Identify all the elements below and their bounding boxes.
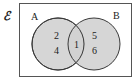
set-a-element: 2 — [54, 30, 59, 41]
set-b-element: 6 — [92, 45, 97, 56]
set-b-element: 5 — [92, 30, 97, 41]
venn-diagram: ℰ A B 2 4 1 5 6 — [0, 0, 136, 80]
universal-set-symbol: ℰ — [3, 9, 12, 23]
intersection-element: 1 — [74, 39, 79, 50]
set-a-element: 4 — [54, 45, 59, 56]
set-a-label: A — [31, 11, 39, 22]
set-b-label: B — [113, 10, 120, 21]
